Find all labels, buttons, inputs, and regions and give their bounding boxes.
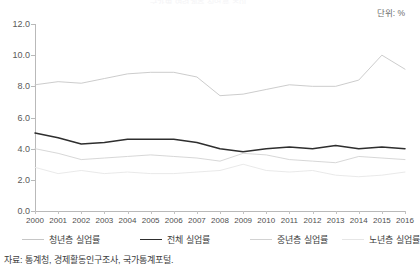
legend-label: 청년층 실업률 bbox=[49, 233, 100, 246]
x-tick bbox=[151, 211, 152, 214]
y-tick-label: 8.0 bbox=[17, 81, 30, 91]
y-tick-label: 2.0 bbox=[17, 175, 30, 185]
x-tick bbox=[128, 211, 129, 214]
x-tick-label: 2012 bbox=[304, 216, 322, 225]
x-tick bbox=[289, 211, 290, 214]
x-tick bbox=[243, 211, 244, 214]
x-tick-label: 2003 bbox=[95, 216, 113, 225]
legend-label: 중년층 실업률 bbox=[277, 233, 328, 246]
x-tick bbox=[266, 211, 267, 214]
plot-area: 0.02.04.06.08.010.012.0 2000200120022003… bbox=[35, 24, 405, 211]
y-tick-label: 0.0 bbox=[17, 206, 30, 216]
x-tick bbox=[405, 211, 406, 214]
legend-swatch bbox=[22, 239, 44, 240]
x-tick-label: 2000 bbox=[26, 216, 44, 225]
x-tick-label: 2008 bbox=[211, 216, 229, 225]
x-tick bbox=[336, 211, 337, 214]
y-tick-label: 4.0 bbox=[17, 144, 30, 154]
chart-legend: 청년층 실업률전체 실업률중년층 실업률노년층 실업률 bbox=[22, 233, 402, 247]
legend-label: 전체 실업률 bbox=[167, 233, 210, 246]
x-tick bbox=[174, 211, 175, 214]
x-tick-label: 2016 bbox=[396, 216, 414, 225]
y-tick-label: 10.0 bbox=[12, 50, 30, 60]
x-tick bbox=[382, 211, 383, 214]
x-tick bbox=[359, 211, 360, 214]
x-tick-label: 2006 bbox=[165, 216, 183, 225]
source-note: 자료: 통계청, 경제활동인구조사, 국가통계포털. bbox=[4, 253, 174, 266]
x-tick bbox=[220, 211, 221, 214]
x-tick bbox=[313, 211, 314, 214]
x-tick bbox=[58, 211, 59, 214]
series-line bbox=[35, 133, 405, 152]
x-tick-label: 2002 bbox=[72, 216, 90, 225]
x-tick-label: 2004 bbox=[119, 216, 137, 225]
x-tick-label: 2010 bbox=[257, 216, 275, 225]
legend-label: 노년층 실업률 bbox=[369, 233, 420, 246]
chart-title-fragment: 국가별 연령계층 실업률 추이 bbox=[150, 0, 380, 4]
x-tick-label: 2005 bbox=[142, 216, 160, 225]
x-tick-label: 2015 bbox=[373, 216, 391, 225]
x-tick-label: 2011 bbox=[281, 216, 298, 225]
x-tick bbox=[35, 211, 36, 214]
series-line bbox=[35, 149, 405, 163]
x-tick-label: 2009 bbox=[234, 216, 252, 225]
legend-swatch bbox=[342, 239, 364, 240]
legend-item[interactable]: 전체 실업률 bbox=[140, 233, 210, 246]
x-tick-label: 2013 bbox=[327, 216, 345, 225]
series-lines bbox=[35, 24, 405, 211]
legend-swatch bbox=[250, 239, 272, 240]
legend-item[interactable]: 청년층 실업률 bbox=[22, 233, 100, 246]
series-line bbox=[35, 164, 405, 176]
legend-item[interactable]: 노년층 실업률 bbox=[342, 233, 420, 246]
x-tick-label: 2007 bbox=[188, 216, 206, 225]
legend-item[interactable]: 중년층 실업률 bbox=[250, 233, 328, 246]
series-line bbox=[35, 55, 405, 96]
legend-swatch bbox=[140, 239, 162, 240]
x-tick bbox=[197, 211, 198, 214]
x-tick bbox=[104, 211, 105, 214]
y-tick-label: 6.0 bbox=[17, 113, 30, 123]
x-tick-label: 2001 bbox=[49, 216, 67, 225]
x-tick-label: 2014 bbox=[350, 216, 368, 225]
x-tick bbox=[81, 211, 82, 214]
unit-label: 단위: % bbox=[377, 6, 405, 18]
y-tick-label: 12.0 bbox=[12, 19, 30, 29]
